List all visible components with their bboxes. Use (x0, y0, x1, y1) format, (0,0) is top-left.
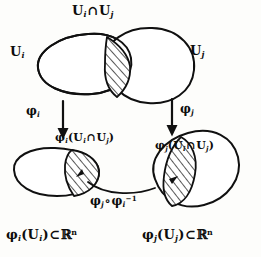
label-map-phi-i: φi (26, 105, 40, 118)
set-uj-base: U (190, 43, 202, 58)
bl-close-paren: ) (42, 227, 48, 242)
label-uj-base: U (99, 3, 111, 18)
label-ui-base: U (72, 3, 84, 18)
phi-i-img-operator: ∩ (86, 131, 96, 144)
label-phi-j-of-intersection: φj(Ui∩Uj) (155, 140, 214, 152)
transition-first-base: φ (90, 194, 101, 208)
phi-j-img-close-paren: ) (209, 139, 214, 152)
label-phi-i-image-subset-rn: φi(Ui)⊂ℝn (6, 228, 77, 242)
phi-j-img-base: φ (155, 139, 165, 152)
phi-i-img-close-paren: ) (109, 131, 114, 144)
bl-subset-symbol: ⊂ (49, 227, 61, 242)
set-ui-subscript: i (22, 50, 25, 60)
diagram-canvas (0, 0, 261, 257)
label-u-i-intersect-u-j: Ui∩Uj (72, 4, 114, 18)
phi-i-img-base: φ (55, 131, 65, 144)
phi-i-base: φ (26, 104, 37, 118)
set-ui-base: U (10, 44, 22, 59)
label-phi-j-image-subset-rn: φj(Uj)⊂ℝn (142, 228, 213, 242)
phi-i-subscript: i (37, 110, 40, 119)
label-phi-i-of-intersection: φi(Ui∩Uj) (55, 132, 114, 144)
br-subset-symbol: ⊂ (184, 227, 196, 242)
arrow-phi-j (167, 99, 178, 137)
bl-real-numbers: ℝ (61, 227, 71, 242)
phi-j-base: φ (180, 102, 191, 116)
phi-j-img-arg-left: U (173, 139, 183, 152)
label-transition-map: φj∘φi−1 (90, 195, 137, 208)
label-map-phi-j: φj (180, 103, 194, 116)
phi-i-img-arg-right: U (96, 131, 106, 144)
br-dimension-exponent: n (207, 228, 213, 237)
br-real-numbers: ℝ (197, 227, 207, 242)
bl-dimension-exponent: n (71, 228, 77, 237)
transition-second-superscript: −1 (126, 194, 137, 203)
label-set-uj: Uj (190, 44, 205, 58)
manifold-chart-diagram: Ui∩Uj Ui Uj φi φj φi(Ui∩Uj) φj(Ui∩Uj) φj… (0, 0, 261, 257)
phi-j-img-arg-right: U (196, 139, 206, 152)
bl-arg: U (28, 227, 40, 242)
bl-phi-base: φ (6, 227, 18, 242)
intersection-operator: ∩ (87, 3, 99, 18)
label-uj-subscript: j (110, 9, 113, 19)
phi-j-img-operator: ∩ (186, 139, 196, 152)
set-uj-subscript: j (202, 49, 205, 59)
br-arg: U (163, 227, 175, 242)
phi-i-img-arg-left: U (73, 131, 83, 144)
br-phi-base: φ (142, 227, 154, 242)
lower-left-image-shape (14, 148, 99, 196)
phi-j-subscript: j (191, 108, 194, 117)
label-set-ui: Ui (10, 45, 25, 59)
transition-second-base: φ (111, 194, 122, 208)
